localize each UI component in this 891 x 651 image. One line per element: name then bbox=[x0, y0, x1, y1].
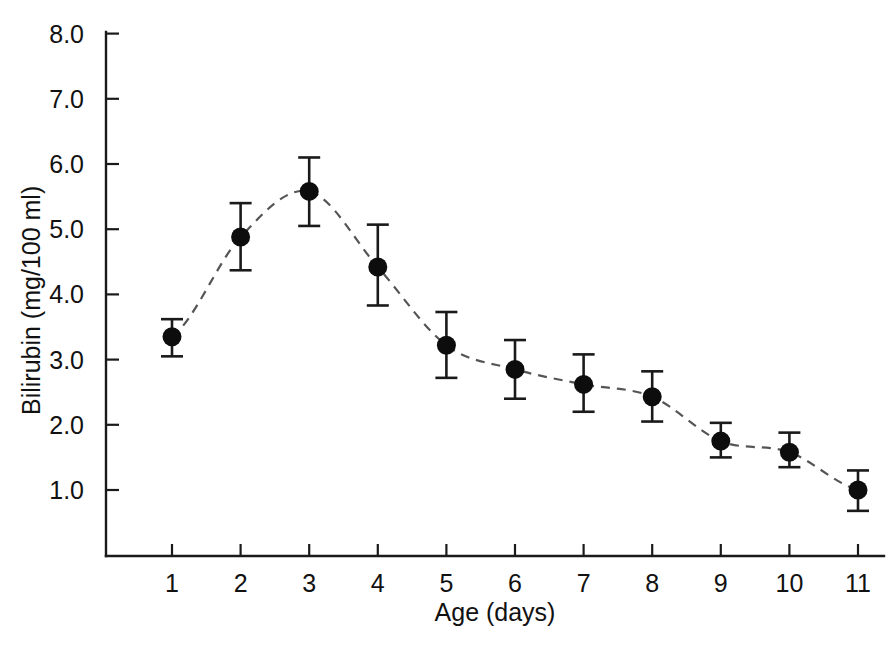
y-tick-label: 6.0 bbox=[49, 150, 84, 178]
y-tick-label: 7.0 bbox=[49, 85, 84, 113]
x-tick-label: 6 bbox=[508, 569, 522, 597]
data-point-day-8 bbox=[643, 387, 662, 406]
x-tick-label: 2 bbox=[234, 569, 248, 597]
x-tick-label: 4 bbox=[371, 569, 385, 597]
y-axis-title: Bilirubin (mg/100 ml) bbox=[17, 186, 45, 415]
x-tick-label: 1 bbox=[165, 569, 179, 597]
bilirubin-age-chart: Bilirubin (mg/100 ml) 1.02.03.04.05.06.0… bbox=[0, 0, 891, 651]
y-tick-group bbox=[106, 34, 119, 490]
x-tick-label: 11 bbox=[845, 569, 871, 597]
x-tick-label: 10 bbox=[775, 569, 803, 597]
x-tick-label-group: 1234567891011 bbox=[165, 569, 871, 597]
data-point-day-4 bbox=[368, 258, 387, 277]
x-axis-title: Age (days) bbox=[435, 598, 556, 626]
data-point-day-9 bbox=[711, 432, 730, 451]
y-tick-label: 4.0 bbox=[49, 280, 84, 308]
data-point-day-7 bbox=[574, 375, 593, 394]
chart-svg: Bilirubin (mg/100 ml) 1.02.03.04.05.06.0… bbox=[0, 0, 891, 651]
data-point-day-5 bbox=[437, 336, 456, 355]
y-tick-label: 2.0 bbox=[49, 411, 84, 439]
y-tick-label: 5.0 bbox=[49, 215, 84, 243]
y-tick-label-group: 1.02.03.04.05.06.07.08.0 bbox=[49, 20, 84, 504]
x-tick-group bbox=[172, 544, 858, 556]
data-point-day-6 bbox=[506, 360, 525, 379]
x-tick-label: 5 bbox=[439, 569, 453, 597]
data-point-day-2 bbox=[231, 228, 250, 247]
y-tick-label: 3.0 bbox=[49, 346, 84, 374]
data-point-day-11 bbox=[849, 481, 868, 500]
x-tick-label: 7 bbox=[577, 569, 591, 597]
y-tick-label: 1.0 bbox=[49, 476, 84, 504]
x-tick-label: 9 bbox=[714, 569, 728, 597]
x-tick-label: 8 bbox=[645, 569, 659, 597]
data-point-day-3 bbox=[300, 182, 319, 201]
y-tick-label: 8.0 bbox=[49, 20, 84, 48]
data-point-day-1 bbox=[163, 327, 182, 346]
data-point-day-10 bbox=[780, 443, 799, 462]
x-tick-label: 3 bbox=[302, 569, 316, 597]
error-bar-group bbox=[161, 157, 869, 510]
